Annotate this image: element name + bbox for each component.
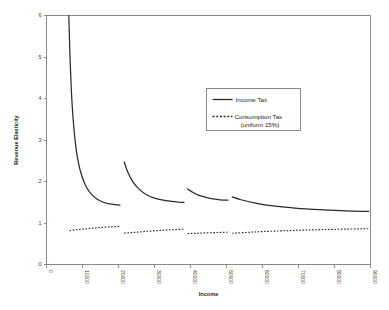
x-tick-label: 50000 — [228, 270, 234, 284]
series-consumption-tax-segment — [124, 229, 184, 233]
legend-label-income-tax: Income Tax — [236, 96, 268, 103]
x-tick-label: 60000 — [264, 270, 270, 284]
series-income-tax-segment — [232, 197, 368, 212]
y-tick-label: 4 — [39, 95, 42, 101]
y-axis-ticks: 0123456 — [39, 12, 47, 267]
x-tick-label: 20000 — [120, 270, 126, 284]
x-tick-label: 10000 — [84, 270, 90, 284]
series-income-tax-segment — [69, 16, 120, 206]
x-tick-label: 30000 — [156, 270, 162, 284]
chart-legend: Income TaxConsumption Tax(uniform 15%) — [207, 89, 301, 131]
y-tick-label: 3 — [39, 137, 42, 143]
chart-figure: 0123456 01000020000300004000050000600007… — [0, 0, 389, 310]
x-tick-label: 80000 — [336, 270, 342, 284]
y-tick-label: 5 — [39, 54, 42, 60]
y-tick-label: 2 — [39, 178, 42, 184]
series-consumption-tax-segment — [70, 226, 120, 230]
x-tick-label: 0 — [48, 270, 54, 273]
x-axis-title: Income — [199, 291, 219, 297]
axes — [47, 16, 371, 265]
y-tick-label: 0 — [39, 261, 42, 267]
y-axis-title: Revenue Elasticity — [13, 114, 19, 164]
legend-sublabel-consumption-tax: (uniform 15%) — [241, 121, 280, 128]
series-income-tax-segment — [188, 189, 228, 200]
y-tick-label: 1 — [39, 220, 42, 226]
series-consumption-tax-segment — [188, 232, 228, 233]
x-axis-ticks: 0100002000030000400005000060000700008000… — [47, 265, 378, 285]
chart-canvas: 0123456 01000020000300004000050000600007… — [0, 0, 389, 310]
legend-label-consumption-tax: Consumption Tax — [235, 113, 284, 120]
x-tick-label: 70000 — [300, 270, 306, 284]
x-tick-label: 40000 — [192, 270, 198, 284]
series-consumption-tax-segment — [232, 229, 368, 234]
x-tick-label: 90000 — [372, 270, 378, 284]
series-income-tax-segment — [124, 162, 184, 202]
y-tick-label: 6 — [39, 12, 42, 18]
